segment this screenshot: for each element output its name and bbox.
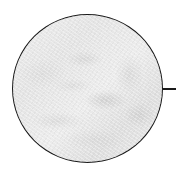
- powder-texture: [13, 15, 162, 162]
- powder-magnified-inset: [12, 14, 163, 163]
- leader-line: [163, 88, 176, 90]
